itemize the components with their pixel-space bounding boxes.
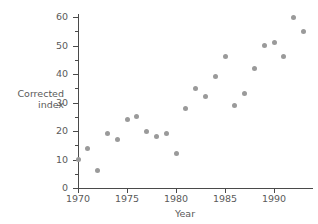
data-point [301, 29, 306, 34]
data-point [76, 157, 81, 162]
y-minor-tick-25 [75, 117, 79, 118]
x-axis-line [78, 188, 313, 189]
y-minor-tick-45 [75, 60, 79, 61]
data-point [291, 15, 296, 20]
y-tick-label-10: 10 [12, 155, 68, 165]
data-point [174, 151, 179, 156]
y-axis-line [78, 14, 79, 189]
data-point [85, 146, 90, 151]
y-minor-tick-15 [75, 145, 79, 146]
y-axis-title-line1: Corrected [4, 88, 64, 99]
data-point [213, 74, 218, 79]
data-point [183, 106, 188, 111]
data-point [125, 117, 130, 122]
data-point [154, 134, 159, 139]
x-tick-label-1985: 1985 [205, 194, 245, 204]
data-point [281, 54, 286, 59]
data-point [144, 129, 149, 134]
data-point [232, 103, 237, 108]
data-point [223, 54, 228, 59]
y-tick-label-40: 40 [12, 69, 68, 79]
data-point [95, 168, 100, 173]
data-point [115, 137, 120, 142]
scatter-plot: 0102030405060 19701975198019851990 Corre… [0, 0, 318, 224]
x-tick-label-1970: 1970 [58, 194, 98, 204]
x-tick-label-1990: 1990 [254, 194, 294, 204]
y-minor-tick-35 [75, 88, 79, 89]
y-tick-30 [73, 103, 79, 104]
y-tick-20 [73, 131, 79, 132]
data-point [164, 131, 169, 136]
data-point [203, 94, 208, 99]
data-point [193, 86, 198, 91]
data-point [252, 66, 257, 71]
x-tick-label-1975: 1975 [107, 194, 147, 204]
x-axis-title: Year [155, 208, 215, 219]
y-minor-tick-5 [75, 174, 79, 175]
data-point [134, 114, 139, 119]
y-axis-title-line2: index [4, 99, 64, 110]
y-tick-label-60: 60 [12, 12, 68, 22]
y-tick-label-0: 0 [12, 183, 68, 193]
y-tick-50 [73, 46, 79, 47]
y-tick-60 [73, 17, 79, 18]
y-tick-label-50: 50 [12, 41, 68, 51]
y-tick-label-20: 20 [12, 126, 68, 136]
y-tick-40 [73, 74, 79, 75]
data-point [272, 40, 277, 45]
data-point [262, 43, 267, 48]
data-point [105, 131, 110, 136]
y-axis-title: Corrected index [4, 88, 64, 110]
x-tick-label-1980: 1980 [156, 194, 196, 204]
data-point [242, 91, 247, 96]
y-minor-tick-55 [75, 31, 79, 32]
